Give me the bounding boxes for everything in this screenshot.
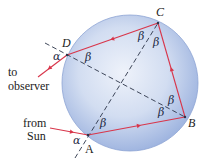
angle-beta-A: β	[99, 117, 106, 130]
angle-beta-C-left: β	[137, 30, 144, 43]
angle-beta-D: β	[84, 51, 91, 64]
raindrop-sphere	[62, 15, 198, 151]
angle-alpha-A: α	[73, 134, 81, 147]
angle-alpha-D: α	[53, 50, 61, 63]
angle-beta-B-lower: β	[157, 106, 164, 119]
from-sun-label-line1: from	[23, 116, 47, 130]
point-B-marker	[184, 116, 186, 118]
to-observer-label-line2: observer	[8, 79, 49, 93]
point-label-A: A	[85, 142, 94, 156]
point-A-marker	[87, 134, 89, 136]
angle-beta-C-right: β	[152, 36, 159, 49]
from-sun-label-line2: Sun	[27, 129, 46, 143]
point-D-marker	[66, 54, 68, 56]
point-label-B: B	[188, 116, 196, 130]
point-C-marker	[157, 22, 159, 24]
to-observer-label-line1: to	[8, 65, 17, 79]
angle-beta-B-upper: β	[167, 94, 174, 107]
point-label-D: D	[61, 36, 71, 50]
point-label-C: C	[156, 5, 165, 19]
raindrop-reflection-diagram: C D B A α β β β β β β α to observer from…	[0, 0, 205, 162]
